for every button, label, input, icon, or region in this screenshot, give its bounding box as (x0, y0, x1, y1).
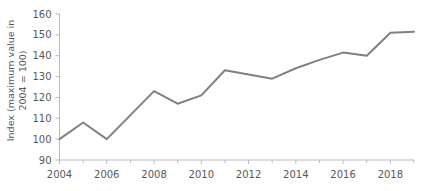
x-tick-mark-group (60, 160, 415, 164)
y-tick-mark-group (56, 14, 60, 160)
x-tick-label: 2010 (189, 169, 214, 180)
x-tick-label: 2008 (141, 169, 166, 180)
x-tick-label: 2004 (47, 169, 72, 180)
x-tick-label: 2016 (330, 169, 355, 180)
y-tick-label: 130 (32, 71, 51, 82)
y-tick-label: 90 (39, 155, 52, 166)
y-tick-label: 160 (32, 9, 51, 20)
x-tick-label: 2018 (378, 169, 403, 180)
x-tick-label-group: 20042006200820102012201420162018 (47, 169, 403, 180)
plot-area: 16015014013012011010090 2004200620082010… (0, 0, 422, 191)
y-axis-label: Index (maximum value in 2004 = 100) (0, 0, 34, 160)
x-tick-label: 2014 (283, 169, 308, 180)
y-axis-label-line2: 2004 = 100) (17, 19, 29, 140)
data-series-line (60, 32, 415, 139)
y-tick-label: 110 (32, 113, 51, 124)
y-tick-label: 100 (32, 134, 51, 145)
x-tick-label: 2012 (236, 169, 261, 180)
x-tick-label: 2006 (94, 169, 119, 180)
y-axis-label-line1: Index (maximum value in (6, 19, 18, 140)
y-tick-label: 150 (32, 29, 51, 40)
line-chart: Index (maximum value in 2004 = 100) 1601… (0, 0, 422, 191)
y-tick-label: 120 (32, 92, 51, 103)
y-tick-label: 140 (32, 50, 51, 61)
y-tick-label-group: 16015014013012011010090 (32, 9, 51, 166)
